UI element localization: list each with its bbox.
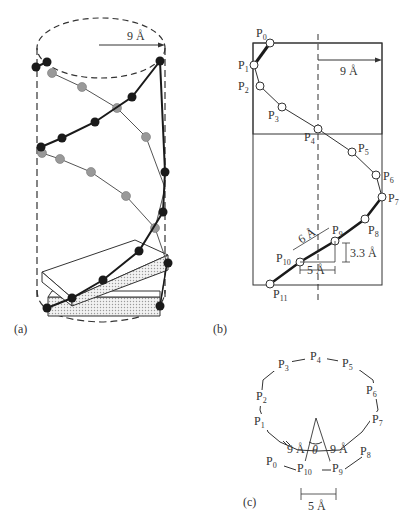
svg-text:P0: P0: [256, 26, 267, 42]
svg-text:P11: P11: [273, 287, 287, 303]
dim-6-label: 6 Å: [296, 225, 319, 246]
panel-label-a: (a): [14, 322, 27, 336]
left-radius-label: 9 Å: [287, 442, 305, 456]
figure: 9 Å: [0, 0, 411, 522]
point-labels-c: P4 P5 P3 P6 P2 P7 P1 P8 P0 P10 P9: [252, 349, 390, 477]
svg-text:P7: P7: [388, 191, 399, 207]
svg-text:P3: P3: [268, 108, 279, 124]
dim-33-label: 3.3 Å: [350, 246, 377, 260]
chord-label: 5 Å: [308, 499, 326, 513]
ring-right: [298, 357, 378, 451]
svg-text:P2: P2: [238, 79, 249, 95]
panel-label-b: (b): [213, 322, 227, 336]
chain-thick: [270, 197, 382, 284]
dim-5-label: 5 Å: [307, 263, 325, 277]
arrowhead-icon: [375, 58, 382, 63]
radius-label-b: 9 Å: [340, 64, 358, 78]
cylinder-top: [37, 18, 165, 78]
arrowhead-icon: [158, 43, 165, 48]
panel-b: 9 Å P0 P1 P2 P3 P4 P5 P6: [213, 26, 399, 336]
angle-theta: θ: [312, 443, 318, 457]
gray-strand-lower: [42, 153, 155, 228]
right-radius-label: 9 Å: [330, 442, 348, 456]
svg-text:P6: P6: [383, 169, 394, 185]
panel-a: 9 Å: [14, 18, 173, 336]
panel-label-c: (c): [243, 495, 256, 509]
svg-text:P10: P10: [276, 251, 291, 267]
svg-text:P5: P5: [358, 141, 369, 157]
gray-beads: [38, 69, 160, 233]
dark-strand: [41, 61, 160, 147]
svg-text:P1: P1: [238, 58, 249, 74]
radius-label-a: 9 Å: [127, 29, 145, 43]
svg-text:P4: P4: [304, 130, 315, 146]
svg-text:P9: P9: [332, 223, 343, 239]
panel-c: θ 9 Å 9 Å 5 Å P4 P5 P3 P6 P2 P7 P1 P8 P: [243, 349, 390, 513]
svg-text:P8: P8: [368, 223, 379, 239]
